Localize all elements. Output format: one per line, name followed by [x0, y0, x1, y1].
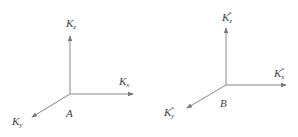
- label-ky-b: Ky*: [164, 106, 174, 120]
- label-kx-a: Kx: [119, 76, 129, 89]
- origin-label-b: B: [220, 98, 227, 109]
- label-kz-a: Kz: [66, 18, 76, 31]
- label-kz-b: Kz*: [222, 11, 232, 25]
- axes-canvas: [0, 0, 298, 137]
- y-axis-a: [32, 94, 70, 117]
- label-kx-b: Kx*: [274, 67, 284, 81]
- coordinate-system-b: [187, 28, 286, 108]
- label-ky-a: Ky: [12, 116, 22, 129]
- origin-label-a: A: [66, 108, 73, 119]
- coordinate-system-a: [32, 36, 133, 117]
